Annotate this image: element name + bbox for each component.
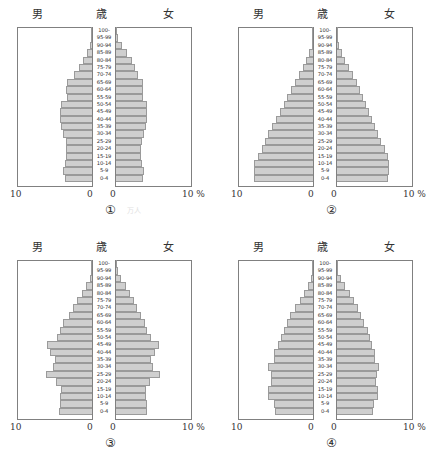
plot-area-2: 100-95-9990-9485-8980-8475-7970-7465-696…	[238, 27, 413, 187]
population-bar	[271, 371, 314, 378]
bar-row	[238, 130, 314, 137]
chart-caption-1: ①	[0, 203, 221, 218]
bar-row	[336, 363, 413, 370]
population-bar	[115, 304, 137, 311]
population-bar	[276, 116, 314, 123]
age-header-label: 歳	[96, 241, 107, 254]
age-group-label: 75-79	[314, 64, 336, 71]
population-bar	[60, 108, 93, 115]
bar-row	[336, 400, 413, 407]
age-group-label: 10-14	[93, 160, 115, 167]
bar-row	[17, 260, 93, 267]
bar-row	[336, 371, 413, 378]
axis-left-inner: 0	[87, 189, 93, 200]
bar-row	[238, 297, 314, 304]
bar-row	[17, 371, 93, 378]
bar-row	[115, 327, 192, 334]
bar-row	[115, 79, 192, 86]
population-bar	[336, 108, 369, 115]
bar-row	[238, 71, 314, 78]
population-bar	[53, 363, 93, 370]
bar-row	[115, 378, 192, 385]
bar-row	[238, 275, 314, 282]
bar-row	[17, 393, 93, 400]
bar-row	[115, 64, 192, 71]
bar-row	[17, 94, 93, 101]
population-bar	[336, 304, 358, 311]
bar-row	[336, 349, 413, 356]
bar-row	[336, 408, 413, 415]
population-bar	[254, 175, 314, 182]
age-group-label: 85-89	[93, 49, 115, 56]
bar-row	[238, 260, 314, 267]
bar-row	[238, 64, 314, 71]
population-bar	[336, 319, 364, 326]
age-group-label: 90-94	[93, 275, 115, 282]
bar-row	[115, 297, 192, 304]
bar-row	[17, 312, 93, 319]
population-bar	[115, 378, 150, 385]
bar-row	[17, 101, 93, 108]
bar-row	[336, 393, 413, 400]
age-group-label: 75-79	[93, 297, 115, 304]
bar-row	[238, 267, 314, 274]
population-bar	[265, 138, 314, 145]
bar-row	[336, 116, 413, 123]
bar-row	[17, 116, 93, 123]
population-bar	[336, 153, 388, 160]
age-group-label: 55-59	[314, 94, 336, 101]
bar-row	[336, 57, 413, 64]
age-group-label: 60-64	[93, 86, 115, 93]
male-bars	[238, 27, 314, 187]
chart-panel-3: 男 歳 女 100-95-9990-9485-8980-8475-7970-74…	[0, 233, 221, 466]
bar-row	[336, 356, 413, 363]
bar-row	[336, 312, 413, 319]
population-bar	[275, 408, 314, 415]
bar-row	[115, 356, 192, 363]
panel-header-3: 男 歳 女	[17, 240, 192, 258]
age-group-label: 70-74	[93, 71, 115, 78]
bar-row	[238, 153, 314, 160]
axis-right-inner: 0	[331, 189, 337, 200]
population-bar	[336, 130, 378, 137]
age-group-label: 85-89	[93, 282, 115, 289]
population-bar	[56, 378, 93, 385]
bar-row	[17, 408, 93, 415]
population-bar	[268, 130, 314, 137]
age-group-label: 90-94	[314, 42, 336, 49]
population-bar	[336, 175, 388, 182]
chart-caption-2: ②	[221, 203, 442, 218]
bar-row	[17, 153, 93, 160]
bar-row	[115, 371, 192, 378]
age-group-label: 60-64	[93, 319, 115, 326]
population-bar	[115, 101, 147, 108]
population-bar	[290, 312, 314, 319]
bar-row	[336, 334, 413, 341]
bar-row	[115, 260, 192, 267]
bar-row	[336, 275, 413, 282]
population-bar	[115, 86, 143, 93]
bar-row	[115, 334, 192, 341]
bar-row	[238, 312, 314, 319]
population-bar	[115, 94, 143, 101]
population-bar	[274, 349, 314, 356]
bar-row	[115, 57, 192, 64]
bar-row	[238, 319, 314, 326]
bar-row	[115, 94, 192, 101]
age-group-label: 45-49	[93, 108, 115, 115]
population-bar	[336, 363, 379, 370]
male-header-label: 男	[253, 241, 264, 254]
age-group-label: 20-24	[93, 378, 115, 385]
population-bar	[115, 312, 141, 319]
panel-header-1: 男 歳 女	[17, 7, 192, 25]
bar-row	[238, 290, 314, 297]
bar-row	[17, 349, 93, 356]
axis-left-inner: 0	[308, 189, 314, 200]
population-bar	[115, 42, 122, 49]
bar-row	[115, 282, 192, 289]
age-group-label: 95-99	[93, 267, 115, 274]
age-group-label: 95-99	[314, 34, 336, 41]
population-bar	[59, 408, 93, 415]
population-bar	[73, 304, 93, 311]
population-bar	[66, 138, 93, 145]
